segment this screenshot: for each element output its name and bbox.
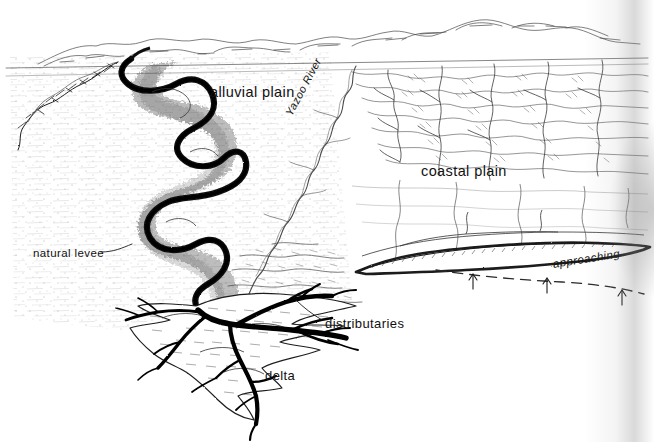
label-natural-levee: natural levee <box>33 247 104 259</box>
label-distributaries: distributaries <box>325 316 404 331</box>
label-delta: delta <box>265 368 295 383</box>
figure-canvas: alluvial plain coastal plain natural lev… <box>0 0 654 442</box>
label-alluvial-plain: alluvial plain <box>210 84 295 100</box>
river-system-block-diagram <box>0 0 654 442</box>
label-coastal-plain: coastal plain <box>421 163 507 179</box>
